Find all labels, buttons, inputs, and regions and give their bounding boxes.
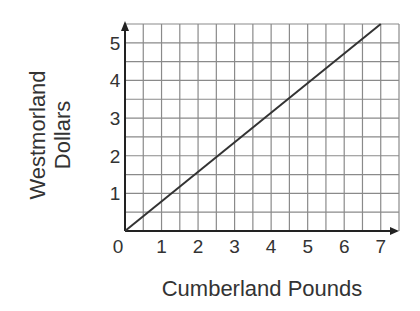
x-tick-label: 2: [193, 236, 204, 257]
x-tick-label: 3: [229, 236, 240, 257]
x-tick-label: 4: [266, 236, 277, 257]
y-tick-label: 1: [110, 183, 121, 204]
y-tick-label: 3: [110, 108, 121, 129]
x-axis-arrow-icon: [390, 227, 399, 235]
x-tick-label: 1: [156, 236, 167, 257]
y-axis-title-line-1: Westmorland: [25, 70, 50, 199]
y-axis-title-line-2: Dollars: [50, 70, 75, 199]
y-tick-label: 5: [110, 33, 121, 54]
x-tick-label: 7: [375, 236, 386, 257]
grid-lines: [125, 24, 399, 231]
y-tick-label: 4: [110, 70, 121, 91]
y-axis-arrow-icon: [121, 21, 129, 31]
x-axis-title: Cumberland Pounds: [125, 276, 399, 302]
axes: [121, 21, 399, 235]
x-tick-label: 5: [302, 236, 313, 257]
y-tick-label: 2: [110, 146, 121, 167]
y-axis-title: Westmorland Dollars: [20, 40, 80, 230]
origin-label: 0: [113, 236, 124, 257]
x-tick-label: 6: [339, 236, 350, 257]
